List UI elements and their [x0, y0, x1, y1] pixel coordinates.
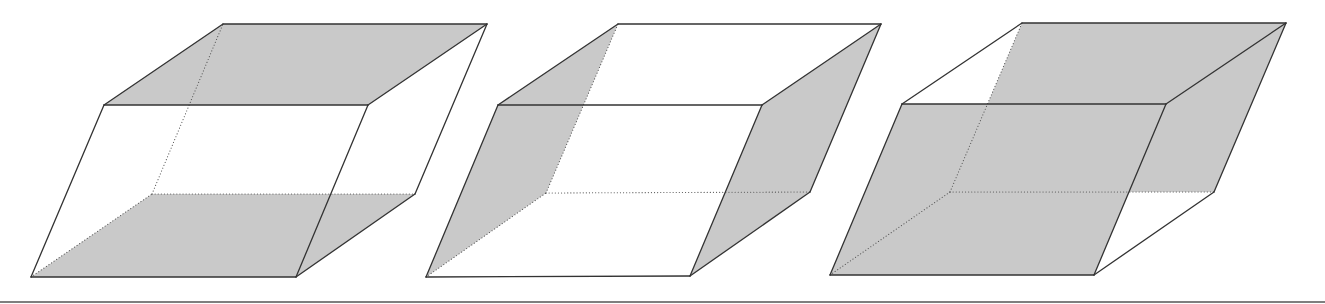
- parallelepiped-front-back-shaded: [830, 23, 1286, 275]
- visible-edge: [426, 276, 690, 277]
- parallelepiped-top-bottom-shaded: [31, 24, 487, 277]
- top-face: [104, 24, 487, 105]
- left-face: [426, 24, 618, 277]
- parallelepiped-sides-shaded: [426, 24, 881, 277]
- bottom-face: [31, 194, 415, 277]
- front-face: [830, 104, 1166, 275]
- parallelepipeds-figure: [0, 0, 1325, 304]
- diagram-canvas: [0, 0, 1325, 304]
